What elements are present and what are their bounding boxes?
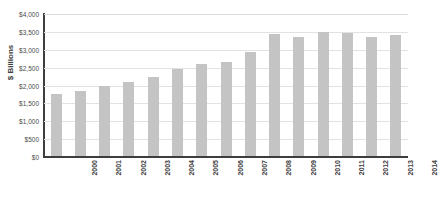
x-axis-tick-label: 2013 xyxy=(407,160,415,192)
bar xyxy=(123,82,134,157)
y-axis-tick-labels: $0$500$1,000$1,500$2,000$2,500$3,000$3,5… xyxy=(0,14,42,157)
y-axis-tick-label: $4,000 xyxy=(19,11,39,18)
bar xyxy=(99,86,110,157)
y-axis-tick-label: $3,000 xyxy=(19,46,39,53)
bar xyxy=(269,34,280,157)
bar xyxy=(318,32,329,157)
x-axis-tick-label: 2011 xyxy=(358,160,366,192)
x-axis-tick-label: 2003 xyxy=(164,160,172,192)
y-axis-tick-label: $2,000 xyxy=(19,82,39,89)
clipped-chart-title xyxy=(40,0,240,4)
bar xyxy=(366,37,377,157)
x-axis-tick-label: 2010 xyxy=(334,160,342,192)
x-axis-tick-label: 2012 xyxy=(382,160,390,192)
bar xyxy=(51,94,62,157)
y-axis-tick-label: $500 xyxy=(25,136,39,143)
bar xyxy=(390,35,401,157)
x-axis-tick-labels: 2000200120022003200420052006200720082009… xyxy=(44,158,408,200)
x-axis-tick-label: 2001 xyxy=(115,160,123,192)
x-axis-tick-label: 2004 xyxy=(188,160,196,192)
x-axis-tick-label: 2009 xyxy=(310,160,318,192)
plot-area xyxy=(44,14,408,157)
bar xyxy=(196,64,207,157)
x-axis-tick-label: 2008 xyxy=(285,160,293,192)
gridline xyxy=(44,32,408,33)
bar xyxy=(221,62,232,157)
y-axis-tick-label: $1,000 xyxy=(19,118,39,125)
y-axis-tick-label: $2,500 xyxy=(19,64,39,71)
gridline xyxy=(44,50,408,51)
bar xyxy=(75,91,86,157)
y-axis-tick-label: $1,500 xyxy=(19,100,39,107)
bar xyxy=(172,69,183,157)
bar xyxy=(293,37,304,157)
x-axis-tick-label: 2006 xyxy=(237,160,245,192)
x-axis-tick-label: 2005 xyxy=(212,160,220,192)
gridline xyxy=(44,14,408,15)
bar xyxy=(342,33,353,157)
x-axis-tick-label: 2000 xyxy=(91,160,99,192)
bar xyxy=(148,77,159,157)
bar xyxy=(245,52,256,157)
y-axis-tick-label: $3,500 xyxy=(19,28,39,35)
x-axis-tick-label: 2002 xyxy=(140,160,148,192)
y-axis-tick-label: $0 xyxy=(32,154,39,161)
x-axis-tick-label: 2014 xyxy=(431,160,439,192)
x-axis-tick-label: 2007 xyxy=(261,160,269,192)
